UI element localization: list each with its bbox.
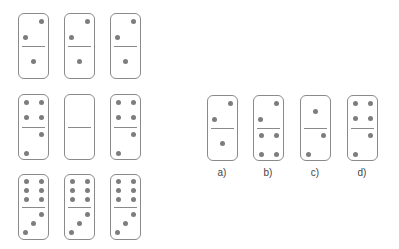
pip-dot — [85, 212, 90, 217]
domino-tile — [18, 13, 49, 79]
pip-dot — [24, 197, 29, 202]
option-label[interactable]: c) — [305, 167, 325, 178]
pip-dot — [85, 19, 90, 24]
pip-dot — [85, 188, 90, 193]
pip-dot — [24, 100, 29, 105]
domino-tile — [18, 174, 49, 240]
pip-dot — [23, 230, 28, 235]
pip-dot — [69, 230, 74, 235]
pip-dot — [69, 35, 74, 40]
domino-tile — [110, 174, 141, 240]
domino-divider — [22, 127, 45, 128]
option-domino-b[interactable] — [253, 95, 284, 161]
pip-dot — [353, 101, 358, 106]
pip-dot — [313, 109, 318, 114]
pip-dot — [39, 100, 44, 105]
pip-dot — [131, 188, 136, 193]
pip-dot — [259, 133, 264, 138]
pip-dot — [39, 197, 44, 202]
domino-divider — [114, 207, 137, 208]
pip-dot — [306, 152, 311, 157]
pip-dot — [368, 101, 373, 106]
option-label[interactable]: b) — [258, 167, 278, 178]
option-domino-d[interactable] — [347, 95, 378, 161]
pip-dot — [220, 141, 225, 146]
pip-dot — [353, 116, 358, 121]
pip-dot — [131, 115, 136, 120]
pip-dot — [131, 132, 136, 137]
pip-dot — [77, 221, 82, 226]
pip-dot — [70, 179, 75, 184]
pip-dot — [258, 117, 263, 122]
pip-dot — [39, 212, 44, 217]
pip-dot — [77, 59, 82, 64]
pip-dot — [274, 101, 279, 106]
option-domino-a[interactable] — [207, 95, 238, 161]
pip-dot — [31, 59, 36, 64]
pip-dot — [274, 152, 279, 157]
pip-dot — [70, 188, 75, 193]
domino-divider — [68, 127, 91, 128]
pip-dot — [131, 19, 136, 24]
pip-dot — [115, 35, 120, 40]
domino-divider — [22, 46, 45, 47]
pip-dot — [39, 19, 44, 24]
pip-dot — [212, 117, 217, 122]
domino-tile — [110, 13, 141, 79]
pip-dot — [31, 221, 36, 226]
pip-dot — [131, 212, 136, 217]
pip-dot — [39, 132, 44, 137]
pip-dot — [353, 152, 358, 157]
domino-divider — [211, 128, 234, 129]
domino-divider — [257, 128, 280, 129]
domino-divider — [68, 207, 91, 208]
pip-dot — [116, 151, 121, 156]
missing-domino — [64, 94, 95, 160]
pip-dot — [70, 197, 75, 202]
pip-dot — [368, 133, 373, 138]
pip-dot — [39, 179, 44, 184]
pip-dot — [24, 179, 29, 184]
pip-dot — [123, 59, 128, 64]
pip-dot — [131, 179, 136, 184]
domino-tile — [64, 13, 95, 79]
pip-dot — [259, 152, 264, 157]
domino-divider — [114, 127, 137, 128]
pip-dot — [115, 230, 120, 235]
pip-dot — [24, 188, 29, 193]
pip-dot — [131, 197, 136, 202]
domino-divider — [68, 46, 91, 47]
pip-dot — [228, 101, 233, 106]
domino-divider — [22, 207, 45, 208]
option-domino-c[interactable] — [300, 95, 331, 161]
pip-dot — [131, 100, 136, 105]
domino-tile — [64, 174, 95, 240]
pip-dot — [123, 221, 128, 226]
pip-dot — [23, 35, 28, 40]
pip-dot — [116, 188, 121, 193]
domino-divider — [114, 46, 137, 47]
pip-dot — [85, 179, 90, 184]
domino-divider — [351, 128, 374, 129]
pip-dot — [116, 115, 121, 120]
pip-dot — [24, 151, 29, 156]
option-label[interactable]: d) — [352, 167, 372, 178]
pip-dot — [321, 133, 326, 138]
pip-dot — [116, 179, 121, 184]
pip-dot — [274, 133, 279, 138]
pip-dot — [116, 197, 121, 202]
option-label[interactable]: a) — [212, 167, 232, 178]
domino-divider — [304, 128, 327, 129]
pip-dot — [39, 115, 44, 120]
pip-dot — [116, 100, 121, 105]
pip-dot — [368, 116, 373, 121]
pip-dot — [85, 197, 90, 202]
domino-tile — [110, 94, 141, 160]
pip-dot — [24, 115, 29, 120]
domino-tile — [18, 94, 49, 160]
pip-dot — [39, 188, 44, 193]
